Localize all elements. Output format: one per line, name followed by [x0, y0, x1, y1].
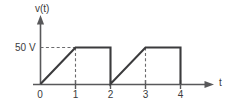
- x-tick-label-4: 4: [174, 90, 188, 100]
- x-tick-label-2: 2: [104, 90, 118, 100]
- x-axis: [33, 81, 214, 88]
- x-tick-label-3: 3: [139, 90, 153, 100]
- x-tick-label-1: 1: [69, 90, 83, 100]
- x-axis-label: t: [219, 78, 222, 88]
- y-axis-arrow-icon: [37, 15, 44, 25]
- guide-lines: [41, 48, 146, 85]
- y-axis-label: v(t): [35, 4, 49, 14]
- x-tick-label-0: 0: [33, 90, 47, 100]
- x-axis-arrow-icon: [205, 81, 215, 88]
- y-tick-label-50v: 50 V: [15, 43, 36, 53]
- y-axis: [37, 15, 44, 84]
- waveform-figure: v(t) 50 V t 0 1 2 3 4: [0, 0, 232, 111]
- waveform-trace: [41, 48, 181, 85]
